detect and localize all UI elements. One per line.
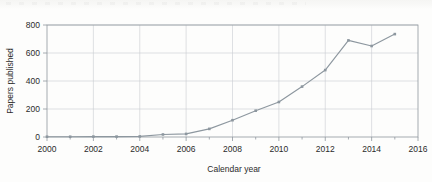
y-axis-tick-labels: 8006004002000: [26, 20, 40, 142]
data-point-2015: [394, 33, 397, 36]
x-tick-label-2000: 2000: [38, 144, 57, 154]
x-axis-title: Calendar year: [207, 164, 261, 174]
x-tick-label-2008: 2008: [223, 144, 242, 154]
y-tick-label-200: 200: [26, 104, 40, 114]
y-axis-ticks: [43, 25, 47, 137]
data-point-2007: [208, 128, 211, 131]
x-tick-label-2002: 2002: [84, 144, 103, 154]
x-tick-label-2012: 2012: [316, 144, 335, 154]
x-tick-label-2004: 2004: [130, 144, 149, 154]
data-point-2006: [185, 133, 188, 136]
data-point-2012: [324, 69, 327, 72]
x-tick-label-2014: 2014: [362, 144, 381, 154]
data-point-2011: [301, 85, 304, 88]
y-tick-label-0: 0: [35, 132, 40, 142]
data-point-2008: [231, 119, 234, 122]
data-point-2014: [370, 45, 373, 48]
x-axis-tick-labels: 200020022004200620082010201220142016: [38, 144, 428, 154]
chart-figure: 8006004002000 20002002200420062008201020…: [0, 0, 432, 182]
line-chart: 8006004002000 20002002200420062008201020…: [0, 0, 432, 182]
y-tick-label-400: 400: [26, 76, 40, 86]
x-axis-ticks: [47, 137, 418, 141]
data-point-2005: [162, 133, 165, 136]
x-tick-label-2010: 2010: [269, 144, 288, 154]
data-point-2010: [278, 101, 281, 104]
data-point-2001: [69, 135, 72, 138]
y-axis-title: Papers published: [5, 48, 15, 114]
x-tick-label-2006: 2006: [177, 144, 196, 154]
y-tick-label-600: 600: [26, 48, 40, 58]
x-tick-label-2016: 2016: [409, 144, 428, 154]
data-point-2004: [138, 135, 141, 138]
data-point-2013: [347, 39, 350, 42]
y-tick-label-800: 800: [26, 20, 40, 30]
data-point-2000: [46, 135, 49, 138]
data-point-2002: [92, 135, 95, 138]
data-point-2009: [254, 109, 257, 112]
data-point-2003: [115, 135, 118, 138]
